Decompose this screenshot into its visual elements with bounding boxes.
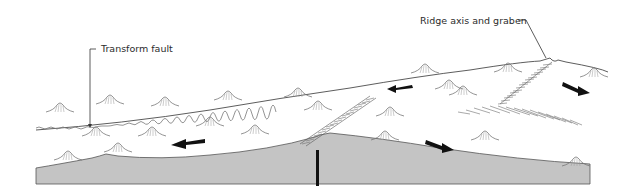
- ridge-axis-label: Ridge axis and graben: [420, 16, 527, 26]
- arrow-upper-right: [562, 82, 590, 96]
- ridge-dike: [316, 150, 319, 186]
- cross-section: [36, 133, 590, 184]
- far-edge-line: [36, 58, 608, 130]
- arrow-upper-center: [387, 85, 413, 93]
- transform-fault-leader: [90, 49, 96, 126]
- arrow-lower-left: [171, 139, 205, 149]
- diagram-canvas: Transform fault Ridge axis and graben: [0, 0, 632, 196]
- transform-fault-label: Transform fault: [101, 44, 173, 54]
- transform-fault-line: [36, 105, 276, 129]
